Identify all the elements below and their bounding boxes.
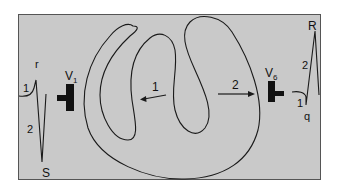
- v1-s-wave-label: S: [42, 166, 50, 180]
- ventricular-activation-diagram: 1 2 V1 V6 r 1 2 S R 2 1 q: [0, 0, 339, 190]
- v6-phase-2-label: 2: [302, 59, 308, 71]
- v1-r-wave-label: r: [35, 58, 39, 70]
- v1-phase-1-label: 1: [23, 82, 29, 94]
- v6-q-wave-label: q: [304, 110, 310, 122]
- v6-r-wave-label: R: [308, 19, 317, 33]
- lateral-vector-label: 2: [232, 78, 239, 92]
- v6-phase-1-label: 1: [297, 97, 303, 109]
- septal-vector-label: 1: [152, 80, 159, 94]
- v1-phase-2-label: 2: [27, 123, 33, 135]
